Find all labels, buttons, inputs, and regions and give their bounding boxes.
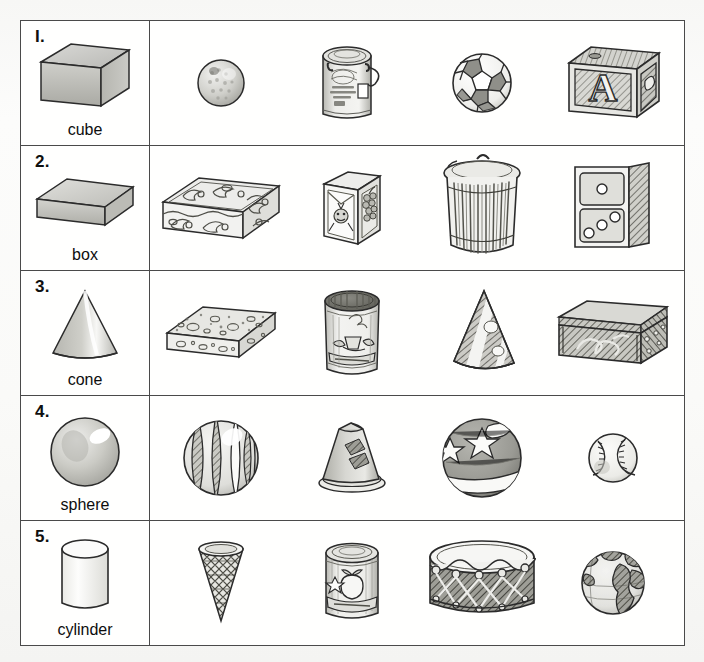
- coffee-can[interactable]: [287, 272, 418, 395]
- golf-ball[interactable]: [156, 22, 287, 145]
- trash-can[interactable]: [417, 147, 548, 270]
- paint-can[interactable]: [287, 22, 418, 145]
- objects-cell-row-4: [150, 396, 685, 521]
- traffic-cone[interactable]: [287, 397, 418, 520]
- domino-pip: [597, 184, 607, 194]
- objects-cell-row-2: [150, 146, 685, 271]
- objects-cell-row-1: A: [150, 21, 685, 146]
- cube-icon: [21, 39, 149, 115]
- shape-cell-cylinder: 5.: [21, 521, 150, 646]
- shape-cell-box: 2.: [21, 146, 150, 271]
- cereal-carton[interactable]: [287, 147, 418, 270]
- party-hat[interactable]: [417, 272, 548, 395]
- domino[interactable]: [548, 147, 679, 270]
- sphere-icon: [21, 414, 149, 490]
- domino-pip: [597, 220, 607, 230]
- rectangular-box-icon: [21, 164, 149, 240]
- soccer-ball[interactable]: [417, 22, 548, 145]
- objects-cell-row-3: [150, 271, 685, 396]
- table-row: 2.: [21, 146, 685, 271]
- table-row: 4.: [21, 396, 685, 521]
- shape-matching-table: I.: [20, 20, 685, 646]
- sponge[interactable]: [156, 272, 287, 395]
- shape-cell-cube: I.: [21, 21, 150, 146]
- shape-cell-sphere: 4.: [21, 396, 150, 521]
- shape-label: cube: [21, 121, 149, 139]
- cone-icon: [21, 289, 149, 365]
- treasure-box[interactable]: [548, 272, 679, 395]
- table-row: I.: [21, 21, 685, 146]
- block-letter: A: [588, 65, 617, 110]
- shape-label: sphere: [21, 496, 149, 514]
- cylinder-icon: [21, 539, 149, 615]
- shape-label: cone: [21, 371, 149, 389]
- fruit-can[interactable]: [287, 522, 418, 645]
- shape-label: cylinder: [21, 621, 149, 639]
- table-row: 3.: [21, 271, 685, 396]
- star-ball[interactable]: [417, 397, 548, 520]
- drum[interactable]: [417, 522, 548, 645]
- beach-ball[interactable]: [156, 397, 287, 520]
- jewelry-box[interactable]: [156, 147, 287, 270]
- worksheet-page: I.: [0, 0, 704, 662]
- shape-label: box: [21, 246, 149, 264]
- objects-cell-row-5: [150, 521, 685, 646]
- baseball[interactable]: [548, 397, 679, 520]
- domino-pip: [610, 212, 620, 222]
- table-row: 5.: [21, 521, 685, 646]
- ice-cream-cone[interactable]: [156, 522, 287, 645]
- globe[interactable]: [548, 522, 679, 645]
- alphabet-block[interactable]: A: [548, 22, 679, 145]
- domino-pip: [584, 228, 594, 238]
- shape-cell-cone: 3.: [21, 271, 150, 396]
